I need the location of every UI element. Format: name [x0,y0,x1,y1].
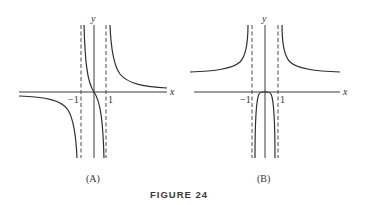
figure-title: FIGURE 24 [150,189,208,200]
tick-neg1-a: −1 [68,94,79,105]
caption-b: (B) [257,173,270,185]
x-label-a: x [169,86,175,97]
caption-a: (A) [86,173,100,185]
x-label-b: x [342,86,348,97]
curve-a-left [19,96,77,158]
tick-neg1-b: −1 [240,94,251,105]
curve-b-right [282,25,340,72]
tick-pos1-b: 1 [280,94,285,105]
figure-24: y x −1 1 (A) y x −1 1 (B) FIGURE 24 [0,0,366,205]
tick-pos1-a: 1 [108,94,113,105]
y-label-a: y [90,13,96,24]
curve-b-left [190,25,248,72]
graph-b: y x −1 1 (B) [190,13,348,185]
curve-a-right [110,25,167,88]
graph-a: y x −1 1 (A) [19,13,175,185]
y-label-b: y [261,13,267,24]
